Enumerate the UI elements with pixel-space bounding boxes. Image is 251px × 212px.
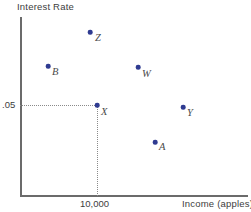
- horizontal-guide-line: [20, 105, 97, 106]
- data-point-label-z: Z: [95, 32, 101, 43]
- data-point-y: [181, 105, 186, 110]
- data-point-x: [95, 103, 100, 108]
- y-axis-line: [20, 17, 22, 197]
- x-axis-line: [20, 195, 248, 197]
- scatter-plot-figure: Interest Rate Income (apples) .05 10,000…: [0, 0, 251, 212]
- data-point-a: [153, 140, 158, 145]
- data-point-w: [136, 65, 141, 70]
- data-point-label-x: X: [101, 106, 107, 117]
- data-point-b: [46, 64, 51, 69]
- x-axis-title: Income (apples): [182, 198, 251, 209]
- data-point-label-b: B: [52, 66, 58, 77]
- data-point-label-y: Y: [187, 107, 193, 118]
- vertical-guide-line: [97, 105, 98, 196]
- y-axis-title: Interest Rate: [17, 1, 74, 12]
- data-point-label-w: W: [142, 68, 151, 79]
- data-point-z: [88, 30, 93, 35]
- y-axis-tick-label: .05: [2, 99, 15, 110]
- data-point-label-a: A: [159, 141, 165, 152]
- x-axis-tick-label: 10,000: [80, 198, 109, 209]
